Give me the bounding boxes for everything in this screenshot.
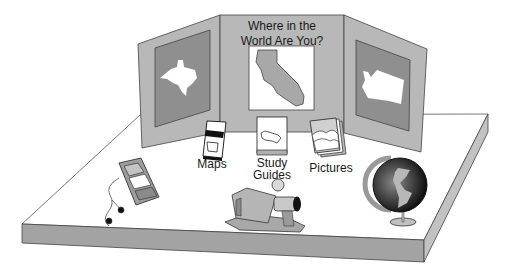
right-panel (344, 15, 427, 152)
study-label-line2: Guides (253, 168, 291, 182)
study-guides-item: Study Guides (253, 117, 291, 182)
pictures-label: Pictures (309, 161, 352, 175)
board-title-line1: Where in the (248, 19, 316, 33)
maps-label: Maps (197, 157, 226, 171)
center-panel: Where in the World Are You? (220, 15, 344, 132)
exhibit-illustration: Where in the World Are You? Maps Study G… (0, 0, 508, 277)
